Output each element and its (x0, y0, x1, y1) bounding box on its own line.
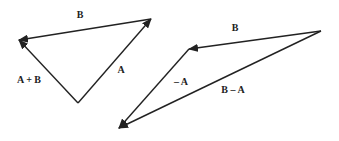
label-right-B: B (232, 23, 239, 33)
vector-arrow-B (19, 19, 151, 40)
vector-diagram (0, 0, 339, 141)
label-B-minus-A: B – A (221, 85, 244, 95)
label-left-B: B (77, 10, 84, 20)
vector-arrow-B_minus_A (119, 31, 321, 128)
vector-arrow-A_plus_B (19, 40, 78, 103)
vector-difference-triangle (119, 31, 321, 128)
label-minus-A: – A (174, 77, 188, 87)
label-left-A: A (117, 65, 124, 75)
vector-sum-triangle (19, 19, 151, 103)
vector-arrow-minus_A (119, 49, 189, 128)
vector-arrow-A (78, 19, 151, 103)
label-A-plus-B: A + B (17, 75, 41, 85)
